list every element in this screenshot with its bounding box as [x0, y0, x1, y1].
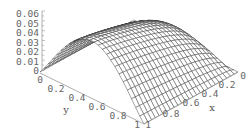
surface-plot: 0.06 0.05 0.04 0.03 0.02 0.01 0 0 0.2 0.…: [0, 0, 251, 131]
y-axis-title: y: [62, 104, 69, 115]
z-axis: 0.06 0.05 0.04 0.03 0.02 0.01 0: [16, 8, 45, 76]
x-tick-0.4: 0.4: [201, 88, 218, 99]
x-tick-0.2: 0.2: [218, 79, 235, 90]
y-tick-0: 0: [37, 74, 43, 85]
y-tick-1: 1: [134, 119, 140, 130]
x-tick-1: 1: [145, 119, 151, 130]
x-tick-0: 0: [240, 70, 246, 81]
x-tick-0.8: 0.8: [162, 108, 179, 119]
y-tick-0.6: 0.6: [88, 101, 105, 112]
z-tick-marks: [42, 11, 45, 70]
y-tick-0.2: 0.2: [47, 83, 64, 94]
y-tick-0.4: 0.4: [68, 92, 85, 103]
y-tick-0.8: 0.8: [109, 110, 126, 121]
x-axis-title: x: [209, 102, 215, 113]
x-tick-0.6: 0.6: [182, 97, 199, 108]
